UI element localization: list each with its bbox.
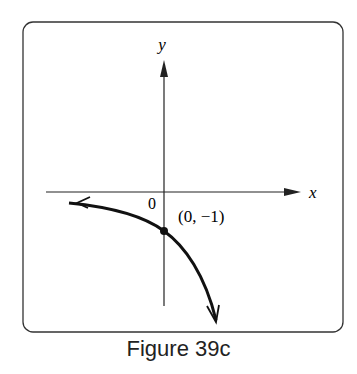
figure-canvas: y x 0 (0, −1) [0, 0, 357, 374]
origin-label: 0 [148, 195, 156, 212]
point-marker [160, 227, 168, 235]
x-axis-label: x [308, 183, 317, 202]
point-label: (0, −1) [178, 207, 224, 226]
y-axis-label: y [156, 35, 166, 54]
figure-frame [23, 22, 343, 332]
figure-caption: Figure 39c [0, 336, 357, 362]
